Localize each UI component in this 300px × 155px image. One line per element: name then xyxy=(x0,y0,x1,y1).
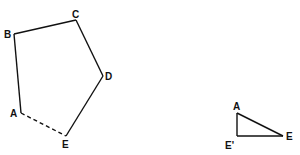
edge-a-e xyxy=(237,113,283,136)
edge-c-d xyxy=(76,20,103,76)
pentagon: B C D E A xyxy=(4,9,112,150)
vertex-label-tri-a: A xyxy=(233,101,240,112)
vertex-label-a: A xyxy=(10,108,17,119)
vertex-label-e: E xyxy=(62,139,69,150)
vertex-label-tri-e: E xyxy=(286,131,293,142)
edge-a-b xyxy=(14,34,21,113)
geometry-diagram: B C D E A A E' E xyxy=(0,0,300,155)
edge-b-c xyxy=(14,20,76,34)
vertex-label-tri-eprime: E' xyxy=(225,140,234,151)
vertex-label-d: D xyxy=(105,71,112,82)
vertex-label-b: B xyxy=(4,29,11,40)
edge-d-e xyxy=(66,76,103,136)
vertex-label-c: C xyxy=(72,9,79,20)
edge-e-a-dashed xyxy=(21,113,66,136)
triangle: A E' E xyxy=(225,101,293,151)
